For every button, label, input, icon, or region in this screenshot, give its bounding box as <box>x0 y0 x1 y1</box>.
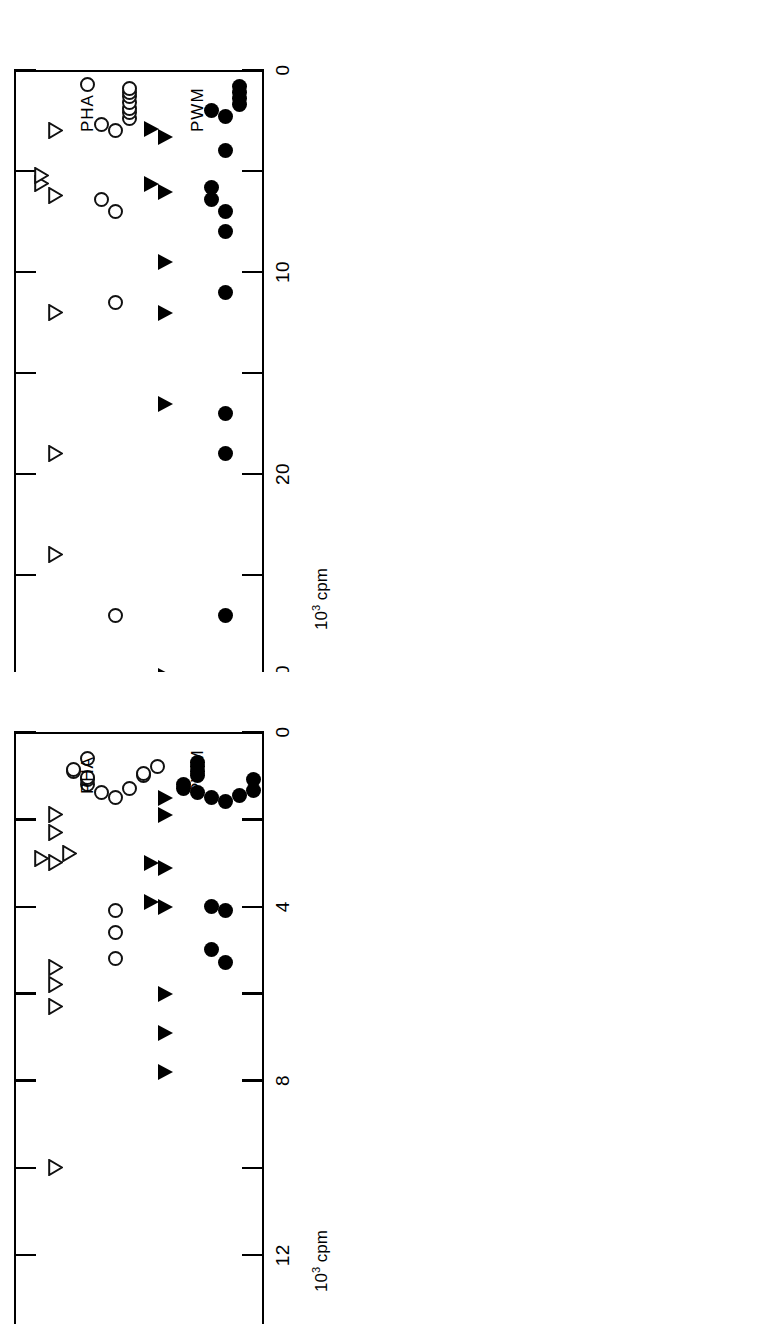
data-point-filled-circle <box>218 143 233 158</box>
axis-tick-label: 0 <box>272 702 294 762</box>
data-point-open-circle <box>108 951 123 966</box>
data-point-filled-circle <box>218 224 233 239</box>
panel-b-axis-title: 103 cpm <box>310 568 332 630</box>
major-tick <box>14 69 36 71</box>
data-point-filled-circle <box>232 79 247 94</box>
panel-a-rotation-wrapper: 32311612840 103 cpm PHA PWM ( a ) <box>0 672 420 1324</box>
data-point-filled-triangle <box>158 305 173 321</box>
panel-a-axis-title: 103 cpm <box>310 1230 332 1292</box>
panel-b-axis-unit: cpm <box>312 568 331 600</box>
figure-canvas: 50403020100 103 cpm PHA PWM ( b ) 323116… <box>0 0 779 1324</box>
panel-a-group-label-pha: PHA <box>78 756 98 794</box>
data-point-filled-triangle <box>158 1025 173 1041</box>
minor-tick <box>14 1167 36 1169</box>
minor-tick <box>14 372 36 374</box>
data-point-open-triangle <box>48 824 63 841</box>
data-point-open-circle <box>108 123 123 138</box>
data-point-filled-circle <box>218 109 233 124</box>
data-point-open-circle <box>108 295 123 310</box>
minor-tick <box>14 574 36 576</box>
minor-tick <box>242 170 264 172</box>
data-point-filled-circle <box>218 608 233 623</box>
axis-tick-label: 20 <box>272 444 294 504</box>
data-point-filled-circle <box>232 788 247 803</box>
data-point-open-triangle <box>48 122 63 139</box>
axis-tick-label: 0 <box>272 40 294 100</box>
panel-a: 32311612840 103 cpm PHA PWM ( a ) <box>0 672 420 1324</box>
panel-b-axis-base: 10 <box>312 611 331 630</box>
axis-tick-label: 8 <box>272 1050 294 1110</box>
data-point-filled-circle <box>218 903 233 918</box>
major-tick <box>14 906 36 908</box>
data-point-open-triangle <box>62 845 77 862</box>
data-point-filled-circle <box>246 772 261 787</box>
data-point-filled-circle <box>218 446 233 461</box>
data-point-open-triangle <box>48 959 63 976</box>
major-tick <box>14 1254 36 1256</box>
data-point-open-circle <box>150 759 165 774</box>
panel-a-group-label-pwm: PWM <box>188 749 208 794</box>
data-point-open-triangle <box>48 304 63 321</box>
major-tick <box>242 69 264 71</box>
major-tick <box>242 473 264 475</box>
minor-tick <box>14 992 36 994</box>
minor-tick <box>242 1167 264 1169</box>
data-point-filled-circle <box>204 180 219 195</box>
data-point-filled-triangle <box>144 894 159 910</box>
data-point-open-circle <box>122 81 137 96</box>
data-point-filled-triangle <box>158 254 173 270</box>
minor-tick <box>242 992 264 994</box>
data-point-filled-triangle <box>158 1064 173 1080</box>
data-point-filled-circle <box>218 955 233 970</box>
data-point-filled-circle <box>218 794 233 809</box>
data-point-filled-circle <box>204 942 219 957</box>
data-point-open-circle <box>122 781 137 796</box>
data-point-open-circle <box>108 790 123 805</box>
major-tick <box>14 473 36 475</box>
panel-a-axis-unit: cpm <box>312 1230 331 1262</box>
data-point-filled-triangle <box>158 184 173 200</box>
major-tick <box>242 1079 264 1081</box>
data-point-open-triangle <box>48 546 63 563</box>
data-point-filled-triangle <box>158 790 173 806</box>
major-tick <box>242 1254 264 1256</box>
data-point-filled-triangle <box>158 986 173 1002</box>
major-tick <box>242 731 264 733</box>
major-tick <box>14 1079 36 1081</box>
data-point-filled-triangle <box>158 129 173 145</box>
data-point-open-circle <box>108 204 123 219</box>
data-point-open-triangle <box>34 850 49 867</box>
data-point-open-circle <box>136 766 151 781</box>
panel-b-axis-exponent: 3 <box>310 605 322 611</box>
panel-b-group-label-pha: PHA <box>78 94 98 132</box>
panel-a-axis-base: 10 <box>312 1273 331 1292</box>
data-point-open-triangle <box>48 445 63 462</box>
minor-tick <box>14 818 36 820</box>
axis-tick-label: 10 <box>272 242 294 302</box>
data-point-open-triangle <box>48 976 63 993</box>
data-point-filled-triangle <box>158 807 173 823</box>
data-point-open-triangle <box>48 854 63 871</box>
data-point-filled-circle <box>204 899 219 914</box>
data-point-open-triangle <box>34 167 49 184</box>
data-point-filled-triangle <box>144 176 159 192</box>
data-point-open-triangle <box>48 1159 63 1176</box>
minor-tick <box>242 372 264 374</box>
axis-tick-label: 12 <box>272 1225 294 1285</box>
data-point-open-triangle <box>48 998 63 1015</box>
data-point-filled-triangle <box>158 860 173 876</box>
major-tick <box>14 271 36 273</box>
data-point-open-circle <box>108 608 123 623</box>
data-point-filled-triangle <box>144 855 159 871</box>
data-point-open-circle <box>108 903 123 918</box>
data-point-filled-circle <box>218 285 233 300</box>
panel-a-axis-exponent: 3 <box>310 1267 322 1273</box>
data-point-open-circle <box>80 77 95 92</box>
data-point-open-triangle <box>48 806 63 823</box>
data-point-filled-circle <box>218 204 233 219</box>
panel-b-group-label-pwm: PWM <box>188 87 208 132</box>
data-point-filled-triangle <box>158 396 173 412</box>
axis-tick-label: 4 <box>272 877 294 937</box>
minor-tick <box>242 574 264 576</box>
data-point-filled-triangle <box>158 899 173 915</box>
